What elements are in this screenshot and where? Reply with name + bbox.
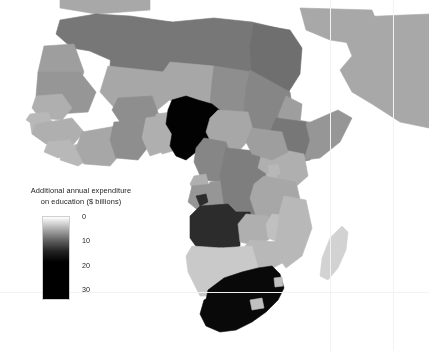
legend-title: Additional annual expenditure on educati…: [8, 186, 154, 207]
gridline-vertical: [330, 0, 331, 351]
colorbar-tick-10: 10: [82, 237, 90, 245]
gridline-vertical: [393, 0, 394, 351]
colorbar-gradient: [42, 216, 70, 300]
figure-container: Additional annual expenditure on educati…: [0, 0, 429, 351]
colorbar-tick-20: 20: [82, 262, 90, 270]
colorbar-tick-0: 0: [82, 213, 86, 221]
colorbar-group: 0 10 20 30: [42, 216, 152, 306]
colorbar-tick-30: 30: [82, 286, 90, 294]
legend: Additional annual expenditure on educati…: [8, 186, 158, 207]
